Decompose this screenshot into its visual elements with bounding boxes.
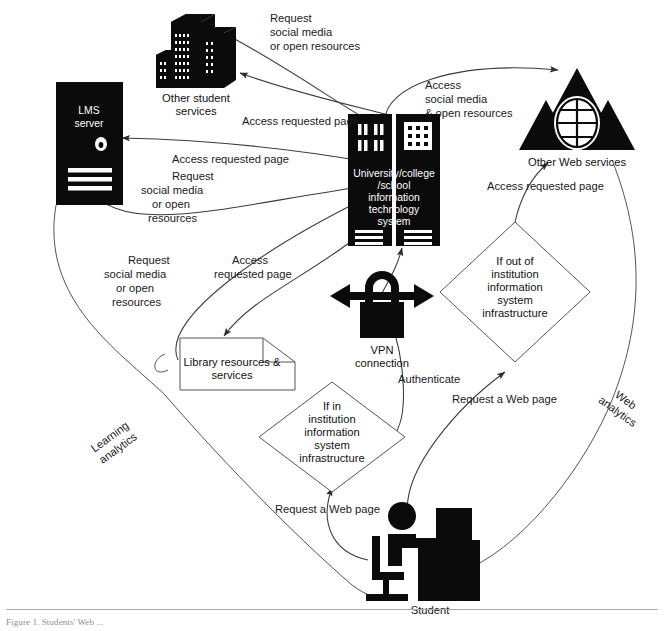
node-lms-server[interactable]: LMS server bbox=[56, 82, 123, 205]
edge-label-access-requested-page-library: Access requested page bbox=[214, 254, 292, 280]
lms-server-label-line1: LMS bbox=[78, 105, 99, 116]
lms-power-ring-inner bbox=[99, 142, 104, 148]
decision-in-line4: system bbox=[314, 439, 349, 451]
access-social-open-line3: & open resources bbox=[425, 107, 513, 119]
vpn-crossbar bbox=[346, 292, 418, 300]
student-chair-post bbox=[383, 580, 389, 596]
edge-label-request-social-top: Request social media or open resources bbox=[270, 12, 361, 52]
node-other-web-services[interactable]: Other Web services bbox=[519, 68, 635, 168]
edge-label-access-social-open: Access social media & open resources bbox=[425, 79, 513, 119]
node-decision-in-infrastructure[interactable]: If in institution information system inf… bbox=[259, 382, 405, 492]
edge-it-system-to-other-student-services bbox=[240, 73, 408, 120]
edge-library-loop bbox=[155, 354, 168, 372]
library-label-line2: services bbox=[211, 369, 252, 381]
decision-out-line3: information bbox=[487, 281, 542, 293]
library-label-line1: Library resources & bbox=[184, 356, 282, 368]
lms-slot-3 bbox=[68, 186, 112, 191]
edge-label-access-requested-page-top: Access requested page bbox=[242, 115, 359, 127]
edge-label-request-web-page-left: Request a Web page bbox=[275, 503, 380, 515]
edge-label-access-requested-page-web: Access requested page bbox=[487, 180, 604, 192]
access-social-open-line1: Access bbox=[425, 79, 461, 91]
decision-in-line1: If in bbox=[323, 400, 341, 412]
other-student-services-label-line1: Other student bbox=[162, 92, 231, 104]
request-social-top-line3: or open resources bbox=[270, 40, 361, 52]
access-social-open-line2: social media bbox=[425, 93, 488, 105]
access-requested-library-line2: requested page bbox=[214, 268, 292, 280]
request-social-lms-line3: or open bbox=[152, 198, 190, 210]
edge-student-to-decision-in bbox=[327, 488, 368, 560]
node-other-student-services[interactable]: Other student services bbox=[156, 14, 236, 117]
edge-label-request-social-library: Request social media or open resources bbox=[104, 254, 171, 308]
vpn-label-line1: VPN bbox=[370, 344, 393, 356]
other-web-services-label: Other Web services bbox=[528, 156, 626, 168]
decision-out-line4: system bbox=[497, 294, 532, 306]
edge-label-web-analytics: Web analytics bbox=[597, 382, 648, 429]
request-social-library-line3: or open bbox=[116, 282, 154, 294]
node-it-system[interactable]: University/college /school information t… bbox=[348, 114, 440, 246]
other-student-services-label-line2: services bbox=[175, 105, 216, 117]
node-library-resources[interactable]: Library resources & services bbox=[180, 338, 295, 390]
node-student[interactable]: Student bbox=[366, 502, 480, 616]
it-rack-gap bbox=[392, 114, 396, 246]
request-social-lms-line4: resources bbox=[148, 212, 198, 224]
edge-label-access-requested-page-lms: Access requested page bbox=[172, 153, 289, 165]
edge-decision-out-to-other-web-services bbox=[515, 163, 548, 222]
figure-canvas: LMS server bbox=[0, 0, 664, 631]
vpn-padlock-body bbox=[360, 302, 404, 338]
node-vpn-connection[interactable]: VPN connection bbox=[330, 271, 434, 369]
request-social-library-line1: Request bbox=[128, 254, 171, 266]
student-head bbox=[388, 502, 416, 530]
decision-in-line5: infrastructure bbox=[299, 452, 364, 464]
student-monitor bbox=[436, 508, 472, 540]
request-social-lms-line2: social media bbox=[141, 184, 204, 196]
decision-in-line3: information bbox=[304, 426, 359, 438]
request-social-library-line4: resources bbox=[112, 296, 162, 308]
lms-slot-1 bbox=[68, 168, 112, 173]
edge-label-request-social-lms: Request social media or open resources bbox=[141, 170, 215, 224]
lms-slot-2 bbox=[68, 177, 112, 182]
figure-caption: Figure 1. Students' Web ... bbox=[6, 617, 506, 630]
decision-out-line2: institution bbox=[491, 268, 538, 280]
network-flow-diagram: LMS server bbox=[0, 0, 664, 631]
vpn-arrow-right bbox=[414, 284, 434, 308]
student-monitor-stand bbox=[428, 540, 480, 548]
access-requested-library-line1: Access bbox=[232, 254, 268, 266]
edge-lms-server-to-it-system bbox=[88, 186, 367, 215]
request-social-library-line2: social media bbox=[104, 268, 167, 280]
student-label: Student bbox=[411, 604, 450, 616]
edge-label-authenticate: Authenticate bbox=[398, 373, 460, 385]
vpn-label-line2: connection bbox=[355, 357, 409, 369]
lms-server-label-line2: server bbox=[75, 118, 104, 129]
vpn-arrow-left bbox=[330, 284, 350, 308]
decision-out-line1: If out of bbox=[496, 255, 534, 267]
request-social-top-line1: Request bbox=[270, 12, 313, 24]
caption-divider bbox=[6, 609, 658, 610]
student-desk bbox=[418, 548, 480, 601]
decision-out-line5: infrastructure bbox=[482, 307, 547, 319]
it-rack-right-dots bbox=[408, 126, 428, 146]
edge-label-learning-analytics: Learning analytics bbox=[89, 419, 140, 466]
node-decision-out-of-infrastructure[interactable]: If out of institution information system… bbox=[440, 222, 590, 362]
request-social-lms-line1: Request bbox=[172, 170, 215, 182]
edge-label-request-web-page-mid: Request a Web page bbox=[452, 393, 557, 405]
request-social-top-line2: social media bbox=[270, 26, 333, 38]
student-chair-base bbox=[366, 594, 408, 601]
decision-in-line2: institution bbox=[308, 413, 355, 425]
building-mid-side bbox=[224, 27, 236, 88]
